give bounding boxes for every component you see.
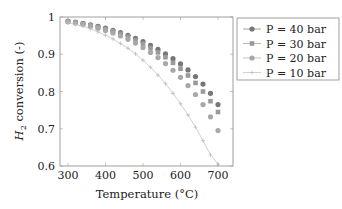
plot-area [65,18,220,166]
chart: 300400500600700 0.60.70.80.91 Temperatur… [0,0,342,209]
y-axis-label: H2 conversion (-) [12,42,28,142]
x-tick-label: 300 [58,169,79,182]
x-axis-label: Temperature (°C) [96,187,199,201]
legend-label: P = 20 bar [266,52,327,65]
y-tick-label: 1 [48,11,55,24]
x-tick-label: 600 [170,169,191,182]
series-30-bar [66,19,221,114]
legend-label: P = 40 bar [266,23,327,36]
x-tick-label: 700 [208,169,229,182]
y-tick-label: 0.6 [38,160,56,173]
plot-frame [60,17,233,166]
y-tick-label: 0.7 [38,123,56,136]
legend-label: P = 30 bar [266,38,327,51]
y-tick-label: 0.8 [38,86,56,99]
legend-label: P = 10 bar [266,67,327,80]
x-tick-label: 400 [95,169,116,182]
legend: P = 40 barP = 30 barP = 20 barP = 10 bar [237,18,339,80]
y-tick-label: 0.9 [38,48,56,61]
x-tick-label: 500 [133,169,154,182]
